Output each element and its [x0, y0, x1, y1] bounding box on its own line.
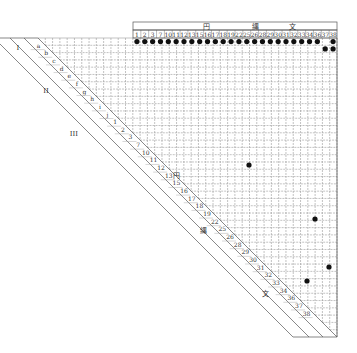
presence-dot	[252, 39, 257, 44]
group-label: 円	[173, 172, 180, 180]
column-number: 34	[306, 31, 314, 38]
column-number: 26	[251, 31, 259, 38]
band-label: b	[44, 49, 48, 56]
presence-dot	[312, 216, 317, 221]
presence-dot	[260, 39, 265, 44]
column-number: 37	[321, 31, 329, 38]
presence-dot	[134, 39, 139, 44]
period-label: II	[43, 87, 49, 95]
column-number: 31	[282, 31, 290, 38]
column-number: 32	[290, 31, 298, 38]
period-label: III	[70, 130, 79, 138]
triangular-matrix: 円縄文1237101112131516171819222526282930313…	[0, 0, 357, 353]
band-label: 2	[121, 126, 125, 133]
presence-dot	[228, 39, 233, 44]
column-number: 3	[151, 31, 155, 38]
column-number: 22	[235, 31, 243, 38]
column-number: 10	[164, 31, 172, 38]
presence-dot	[326, 264, 331, 269]
band-label: e	[67, 72, 71, 79]
band-label: 33	[272, 279, 280, 286]
band-label: 1	[113, 118, 117, 125]
presence-dot	[142, 39, 147, 44]
band-label: 3	[129, 133, 133, 140]
column-number: 15	[196, 31, 204, 38]
presence-dot	[213, 39, 218, 44]
band-label: 10	[142, 149, 150, 156]
column-number: 19	[227, 31, 235, 38]
band-label: 37	[295, 302, 303, 309]
band-label: h	[90, 95, 94, 102]
band-line	[0, 38, 293, 337]
presence-dot	[236, 39, 241, 44]
presence-dot	[323, 46, 328, 51]
column-number: 30	[274, 31, 282, 38]
column-number: 16	[204, 31, 212, 38]
header-group-label: 縄	[252, 22, 259, 31]
presence-dot	[291, 39, 296, 44]
band-label: 7	[136, 141, 140, 148]
band-label: 32	[264, 271, 272, 278]
presence-dot	[304, 278, 309, 283]
presence-dot	[315, 39, 320, 44]
column-number: 7	[159, 31, 163, 38]
column-number: 25	[243, 31, 251, 38]
band-label: 28	[234, 241, 242, 248]
column-number: 13	[188, 31, 196, 38]
band-label: 26	[226, 233, 234, 240]
presence-dot	[197, 39, 202, 44]
column-number: 33	[298, 31, 306, 38]
presence-dot	[244, 39, 249, 44]
band-label: 17	[188, 195, 196, 202]
column-number: 11	[172, 31, 180, 38]
band-label: 15	[173, 179, 181, 186]
band-label: f	[76, 80, 79, 87]
presence-dot	[166, 39, 171, 44]
band-label: g	[83, 88, 87, 96]
presence-dot	[268, 39, 273, 44]
header-group-box	[133, 22, 337, 30]
column-number: 38	[329, 31, 337, 38]
presence-dot	[205, 39, 210, 44]
band-label: 12	[157, 164, 165, 171]
band-label: j	[106, 111, 109, 119]
band-label: 36	[287, 294, 295, 301]
presence-dot	[150, 39, 155, 44]
band-label: 22	[211, 218, 219, 225]
presence-dot	[307, 39, 312, 44]
band-label: i	[99, 103, 101, 110]
period-label: I	[17, 44, 20, 52]
column-number: 18	[219, 31, 227, 38]
column-number: 17	[212, 31, 220, 38]
band-label: 30	[249, 256, 257, 263]
seriation-diagram: 円縄文1237101112131516171819222526282930313…	[0, 0, 357, 353]
band-label: 18	[196, 202, 204, 209]
band-label: 34	[280, 287, 288, 294]
presence-dot	[276, 39, 281, 44]
band-label: 11	[150, 156, 158, 163]
band-label: 29	[242, 248, 250, 255]
group-label: 文	[262, 289, 269, 298]
band-label: 25	[219, 225, 227, 232]
header-group-label: 文	[289, 22, 296, 31]
band-label: c	[52, 57, 56, 64]
column-number: 29	[266, 31, 274, 38]
band-label: a	[37, 42, 41, 49]
band-label: 19	[203, 210, 211, 217]
presence-dot	[174, 39, 179, 44]
presence-dot	[283, 39, 288, 44]
band-label: 38	[303, 310, 311, 317]
column-number: 12	[180, 31, 188, 38]
column-number: 36	[314, 31, 322, 38]
column-number: 1	[135, 31, 139, 38]
column-number: 2	[143, 31, 147, 38]
presence-dot	[181, 39, 186, 44]
header-group-label: 円	[203, 23, 210, 31]
presence-dot	[189, 39, 194, 44]
presence-dot	[330, 39, 335, 44]
presence-dot	[246, 162, 251, 167]
presence-dot	[330, 46, 335, 51]
band-label: 16	[180, 187, 188, 194]
presence-dot	[221, 39, 226, 44]
presence-dot	[158, 39, 163, 44]
